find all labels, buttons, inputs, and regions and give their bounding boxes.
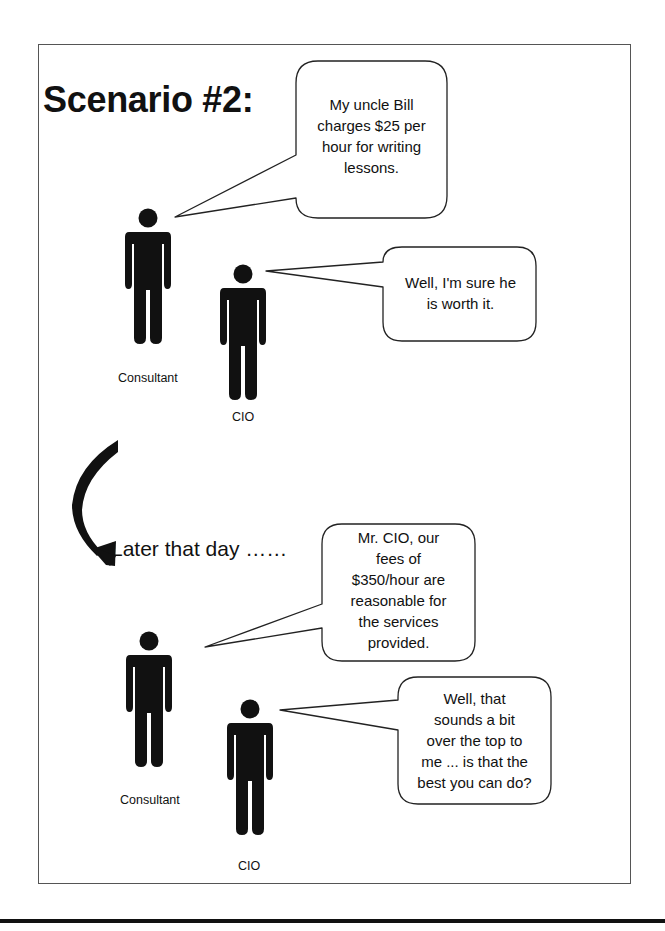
person-silhouette-icon	[227, 700, 273, 836]
person-silhouette-icon	[220, 265, 266, 401]
bubble-line: Mr. CIO, our	[322, 527, 475, 548]
bubble-line: best you can do?	[398, 772, 551, 793]
bubble-line: My uncle Bill	[296, 94, 447, 115]
consultant-label-scene2: Consultant	[120, 792, 180, 808]
person-silhouette-icon	[125, 209, 171, 345]
bubble-text-cio-2: Well, that sounds a bit over the top to …	[398, 688, 551, 793]
cio-label-scene2: CIO	[238, 858, 260, 874]
bubble-line: reasonable for	[322, 590, 475, 611]
bubble-line: over the top to	[398, 730, 551, 751]
bubble-line: me ... is that the	[398, 751, 551, 772]
person-silhouette-icon	[126, 632, 172, 768]
bubble-text-consultant-1: My uncle Bill charges $25 per hour for w…	[296, 94, 447, 178]
bubble-line: lessons.	[296, 157, 447, 178]
bubble-line: fees of	[322, 548, 475, 569]
cio-label-scene1: CIO	[232, 409, 254, 425]
bubble-line: provided.	[322, 632, 475, 653]
bubble-text-cio-1: Well, I'm sure he is worth it.	[385, 272, 536, 314]
bubble-line: charges $25 per	[296, 115, 447, 136]
bubble-text-consultant-2: Mr. CIO, our fees of $350/hour are reaso…	[322, 527, 475, 653]
bubble-line: $350/hour are	[322, 569, 475, 590]
bubble-line: hour for writing	[296, 136, 447, 157]
bubble-line: the services	[322, 611, 475, 632]
bubble-line: is worth it.	[385, 293, 536, 314]
bubble-line: Well, that	[398, 688, 551, 709]
consultant-label-scene1: Consultant	[118, 370, 178, 386]
bubble-line: Well, I'm sure he	[385, 272, 536, 293]
bubble-line: sounds a bit	[398, 709, 551, 730]
transition-text: Later that day ……	[111, 536, 287, 562]
